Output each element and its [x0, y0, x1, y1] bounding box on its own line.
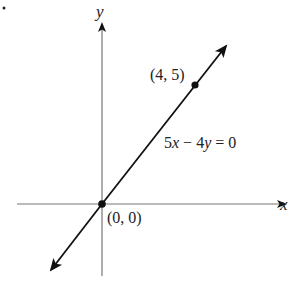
point-label-origin: (0, 0): [107, 209, 142, 227]
coordinate-diagram: y x (4, 5) (0, 0) 5x − 4y = 0: [0, 0, 290, 284]
x-axis-label: x: [279, 195, 288, 214]
point-4-5: [191, 81, 198, 88]
bullet-dot: [3, 7, 6, 10]
equation-label: 5x − 4y = 0: [164, 134, 236, 152]
point-label-4-5: (4, 5): [150, 66, 185, 84]
y-axis-label: y: [94, 2, 104, 21]
point-origin: [98, 200, 106, 208]
line-5x-4y-0-lower: [51, 204, 102, 270]
